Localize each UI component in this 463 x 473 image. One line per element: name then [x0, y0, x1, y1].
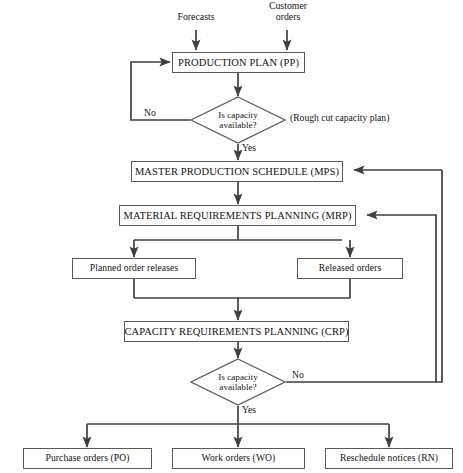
node-capacity-requirements-planning[interactable]: CAPACITY REQUIREMENTS PLANNING (CRP) [124, 321, 349, 342]
node-reschedule-notices[interactable]: Reschedule notices (RN) [325, 448, 453, 469]
node-master-production-schedule[interactable]: MASTER PRODUCTION SCHEDULE (MPS) [131, 161, 343, 182]
node-planned-order-releases[interactable]: Planned order releases [72, 258, 196, 279]
node-production-plan[interactable]: PRODUCTION PLAN (PP) [172, 52, 305, 73]
edge-label-no-top: No [144, 107, 156, 118]
edge-label-yes-bottom: Yes [242, 404, 256, 415]
flowchart-canvas: Forecasts Customer orders PRODUCTION PLA… [0, 0, 463, 473]
edge-label-no-bottom: No [292, 369, 304, 380]
node-material-requirements-planning[interactable]: MATERIAL REQUIREMENTS PLANNING (MRP) [119, 205, 356, 226]
node-released-orders[interactable]: Released orders [297, 258, 403, 279]
annotation-rough-cut-capacity-plan: (Rough cut capacity plan) [290, 112, 389, 123]
node-capacity-check-1[interactable]: Is capacity available? [190, 96, 286, 144]
diamond-shape-2 [190, 358, 286, 406]
node-work-orders[interactable]: Work orders (WO) [172, 448, 305, 469]
input-label-forecasts: Forecasts [160, 12, 232, 23]
customer-orders-line-2: orders [252, 12, 324, 23]
edge-label-yes-top: Yes [242, 142, 256, 153]
diamond-shape-1 [190, 96, 286, 144]
input-label-customer-orders: Customer orders [252, 1, 324, 23]
node-capacity-check-2[interactable]: Is capacity available? [190, 358, 286, 406]
edge-rail-to-mrp [367, 215, 436, 382]
node-purchase-orders[interactable]: Purchase orders (PO) [23, 448, 152, 469]
